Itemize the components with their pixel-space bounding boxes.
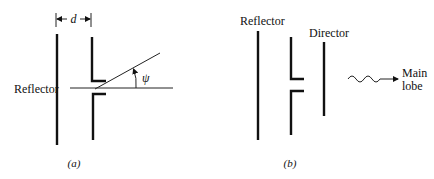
reflector-label-b: Reflector [240,14,285,28]
angle-arc [134,69,137,88]
caption-b: (b) [284,157,297,170]
driven-dipole-lower [93,94,106,140]
driven-dipole-upper [92,37,106,81]
reflector-label: Reflector [14,82,59,96]
dimension-label: d [71,12,78,26]
director-label: Director [309,26,349,40]
driven-dipole-lower-b [291,91,304,135]
main-lobe-label-line2: lobe [402,79,423,93]
wave-arrow-icon [348,76,380,82]
caption-a: (a) [68,157,81,170]
angle-label: ψ [142,71,150,85]
direction-line [95,53,160,89]
driven-dipole-upper-b [291,37,304,79]
main-lobe-label-line1: Main [402,66,427,80]
antenna-diagram: d Reflector ψ (a) Reflector Director Mai… [0,0,434,179]
panel-b: Reflector Director Main lobe (b) [240,14,427,170]
dimension-d: d [56,12,91,27]
panel-a: d Reflector ψ (a) [14,12,173,170]
